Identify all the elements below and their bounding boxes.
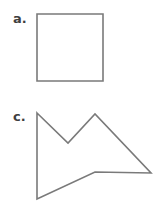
figure-canvas [0, 0, 161, 207]
figure-label-c: c. [13, 110, 26, 123]
canvas-background [0, 0, 161, 207]
figure-label-a: a. [13, 12, 27, 25]
